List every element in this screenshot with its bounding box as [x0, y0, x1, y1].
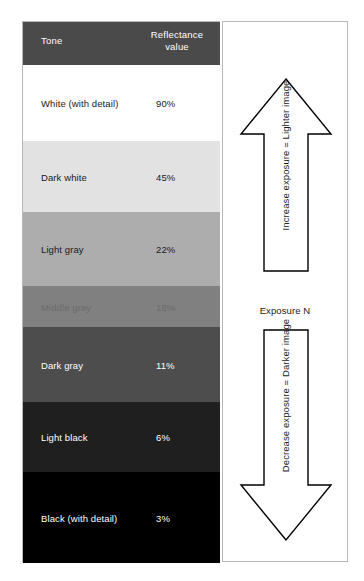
reflectance-value-cell: 22%	[156, 244, 175, 255]
table-row: Light gray22%	[23, 212, 220, 286]
table-row: White (with detail)90%	[23, 65, 220, 141]
table-row: Light black6%	[23, 402, 220, 472]
tone-name-cell: White (with detail)	[41, 98, 118, 109]
tone-row-list: White (with detail)90%Dark white45%Light…	[23, 65, 220, 563]
reflectance-value-cell: 3%	[156, 512, 170, 523]
reflectance-value-cell: 90%	[156, 98, 175, 109]
column-header-reflectance-line1: Reflectance	[151, 29, 203, 40]
table-row: Dark gray11%	[23, 327, 220, 402]
tone-reflectance-figure: Tone Reflectance value White (with detai…	[0, 0, 364, 581]
reflectance-value-cell: 45%	[156, 171, 175, 182]
table-row: Dark white45%	[23, 141, 220, 212]
reflectance-value-cell: 11%	[156, 359, 175, 370]
column-header-reflectance-line2: value	[165, 41, 189, 52]
exposure-direction-panel: Increase exposure = Lighter image Exposu…	[222, 21, 348, 562]
increase-exposure-caption: Increase exposure = Lighter image	[280, 81, 291, 231]
reflectance-value-cell: 18%	[156, 301, 175, 312]
decrease-exposure-caption: Decrease exposure = Darker image	[280, 319, 291, 472]
reflectance-value-cell: 6%	[156, 432, 170, 443]
tone-name-cell: Dark white	[41, 171, 87, 182]
tone-name-cell: Dark gray	[41, 359, 83, 370]
column-header-tone: Tone	[41, 35, 62, 46]
tone-name-cell: Black (with detail)	[41, 512, 117, 523]
table-row: Black (with detail)3%	[23, 472, 220, 563]
column-header-reflectance: Reflectance value	[141, 29, 213, 52]
exposure-midpoint-label: Exposure N	[223, 305, 347, 316]
tone-reflectance-table: Tone Reflectance value White (with detai…	[22, 21, 220, 562]
tone-name-cell: Light black	[41, 432, 88, 443]
table-header-row: Tone Reflectance value	[23, 22, 220, 65]
tone-name-cell: Light gray	[41, 244, 84, 255]
tone-name-cell: Middle gray	[41, 301, 91, 312]
table-row: Middle gray18%	[23, 286, 220, 327]
